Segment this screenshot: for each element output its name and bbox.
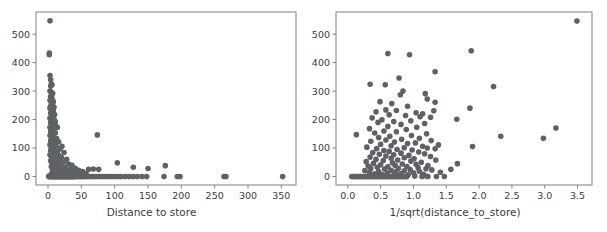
- scatter-point: [375, 120, 381, 126]
- scatter-point: [574, 18, 580, 24]
- scatter-point: [431, 108, 437, 114]
- scatter-point: [372, 130, 378, 136]
- scatter-point: [448, 167, 454, 173]
- scatter-point: [398, 122, 404, 128]
- x-tick-label: 200: [172, 190, 190, 200]
- scatter-point: [280, 174, 286, 180]
- scatter-point: [223, 174, 229, 180]
- x-tick-label: 100: [106, 190, 124, 200]
- scatter-point: [376, 135, 382, 141]
- scatter-plot-invsqrt-svg: 0.00.51.01.52.02.53.03.50100200300400500: [303, 0, 607, 200]
- scatter-point: [364, 144, 370, 150]
- y-tick-label: 500: [12, 29, 30, 40]
- scatter-plot-distance-svg: 0501001502002503003500100200300400500: [0, 0, 303, 200]
- x-tick-label: 1.0: [406, 190, 421, 200]
- scatter-point: [382, 82, 388, 88]
- y-tick-label: 100: [12, 142, 30, 153]
- scatter-point: [409, 147, 415, 153]
- scatter-point: [553, 125, 559, 131]
- x-tick-label: 300: [239, 190, 257, 200]
- scatter-point: [369, 115, 375, 121]
- scatter-point: [386, 112, 392, 118]
- scatter-point: [386, 149, 392, 155]
- y-tick-label: 300: [12, 86, 30, 97]
- y-tick-label: 500: [312, 29, 330, 40]
- y-tick-label: 200: [312, 114, 330, 125]
- scatter-point: [115, 160, 121, 166]
- scatter-point: [438, 169, 444, 175]
- scatter-point: [91, 166, 97, 172]
- scatter-point: [145, 166, 151, 172]
- scatter-point: [368, 138, 374, 144]
- scatter-point: [422, 151, 428, 157]
- x-tick-label: 3.0: [537, 190, 552, 200]
- scatter-point: [394, 108, 400, 114]
- x-tick-label: 1.5: [439, 190, 454, 200]
- scatter-point: [419, 159, 425, 165]
- scatter-point: [405, 103, 411, 109]
- x-tick-label: 0: [45, 190, 51, 200]
- scatter-point: [424, 131, 430, 137]
- y-tick-label: 100: [312, 142, 330, 153]
- x-tick-label: 0.5: [373, 190, 388, 200]
- x-axis-label-invsqrt: 1/sqrt(distance_to_store): [303, 206, 607, 218]
- scatter-point: [417, 114, 423, 120]
- scatter-point: [377, 99, 383, 105]
- scatter-point: [403, 127, 409, 133]
- scatter-point: [413, 140, 419, 146]
- scatter-point: [144, 174, 150, 180]
- scatter-point: [432, 69, 438, 75]
- scatter-point: [383, 107, 389, 113]
- scatter-point: [424, 145, 430, 151]
- scatter-point: [422, 121, 428, 127]
- scatter-point: [131, 165, 137, 171]
- y-tick-label: 0: [24, 171, 30, 182]
- scatter-point: [161, 174, 167, 180]
- scatter-point: [422, 91, 428, 97]
- x-tick-label: 150: [139, 190, 157, 200]
- scatter-point: [424, 96, 430, 102]
- scatter-point: [177, 174, 183, 180]
- scatter-point: [388, 143, 394, 149]
- scatter-figure: 0501001502002503003500100200300400500 Di…: [0, 0, 607, 232]
- scatter-point: [396, 75, 402, 81]
- y-tick-label: 300: [312, 86, 330, 97]
- scatter-point: [398, 92, 404, 98]
- scatter-point: [394, 129, 400, 135]
- scatter-point: [371, 161, 377, 167]
- scatter-point: [391, 119, 397, 125]
- scatter-point: [498, 134, 504, 140]
- scatter-panel-invsqrt: 0.00.51.01.52.02.53.03.50100200300400500…: [303, 0, 607, 232]
- x-tick-label: 350: [272, 190, 290, 200]
- x-tick-label: 250: [206, 190, 224, 200]
- scatter-point: [423, 166, 429, 172]
- scatter-point: [385, 51, 391, 57]
- scatter-point: [428, 154, 434, 160]
- scatter-point: [404, 174, 410, 180]
- plot-frame: [36, 12, 296, 185]
- scatter-point: [413, 110, 419, 116]
- scatter-point: [428, 138, 434, 144]
- scatter-point: [408, 158, 414, 164]
- scatter-point: [417, 136, 423, 142]
- scatter-point: [467, 105, 473, 111]
- scatter-point: [470, 144, 476, 150]
- scatter-point: [395, 157, 401, 163]
- x-tick-label: 50: [75, 190, 87, 200]
- scatter-point: [389, 101, 395, 107]
- y-tick-label: 400: [312, 57, 330, 68]
- scatter-point: [96, 167, 102, 173]
- x-tick-label: 0.0: [340, 190, 355, 200]
- scatter-point: [378, 142, 384, 148]
- scatter-point: [416, 149, 422, 155]
- scatter-point: [377, 151, 383, 157]
- scatter-point: [429, 167, 435, 173]
- scatter-point: [61, 150, 67, 156]
- scatter-point: [399, 136, 405, 142]
- scatter-point: [409, 133, 415, 139]
- x-tick-label: 3.5: [570, 190, 585, 200]
- scatter-point: [367, 154, 373, 160]
- scatter-point: [47, 52, 53, 58]
- scatter-point: [373, 109, 379, 115]
- y-tick-label: 200: [12, 114, 30, 125]
